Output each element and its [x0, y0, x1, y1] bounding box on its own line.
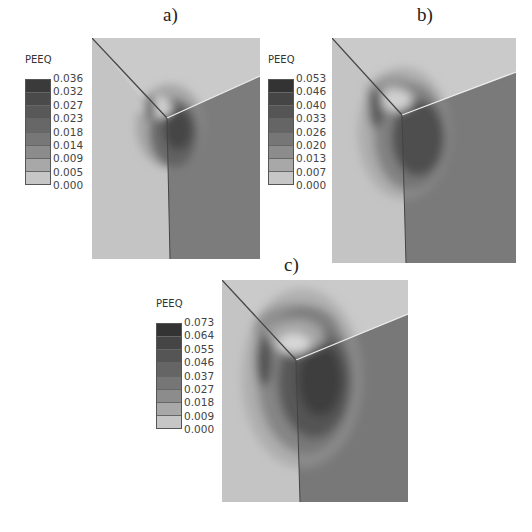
tick-label: 0.009 — [53, 153, 83, 164]
legend-title: PEEQ — [156, 298, 214, 309]
tick-label: 0.013 — [296, 153, 326, 164]
tick-label: 0.073 — [184, 317, 214, 328]
tick-label: 0.027 — [53, 100, 83, 111]
panel-c-contour-plot — [222, 280, 408, 502]
tick-label: 0.018 — [184, 397, 214, 408]
tick-label: 0.014 — [53, 140, 83, 151]
color-scale-bar — [25, 79, 51, 185]
tick-label: 0.009 — [184, 411, 214, 422]
tick-label: 0.000 — [184, 424, 214, 435]
tick-label: 0.036 — [53, 73, 83, 84]
tick-label: 0.046 — [296, 86, 326, 97]
legend-ticks: 0.036 0.032 0.027 0.023 0.018 0.014 0.00… — [53, 73, 83, 191]
legend-title: PEEQ — [268, 54, 326, 65]
panel-a-label: a) — [163, 4, 178, 26]
tick-label: 0.000 — [53, 180, 83, 191]
legend-ticks: 0.053 0.046 0.040 0.033 0.026 0.020 0.01… — [296, 73, 326, 191]
panel-b-legend: PEEQ 0.053 0.046 0.040 0.033 0.026 0.020… — [268, 54, 326, 185]
tick-label: 0.027 — [184, 384, 214, 395]
tick-label: 0.046 — [184, 357, 214, 368]
tick-label: 0.053 — [296, 73, 326, 84]
tick-label: 0.020 — [296, 140, 326, 151]
tick-label: 0.005 — [53, 167, 83, 178]
color-scale-bar — [156, 323, 182, 429]
panel-c-legend: PEEQ 0.073 0.064 0.055 0.046 0.037 0.027… — [156, 298, 214, 429]
legend-ticks: 0.073 0.064 0.055 0.046 0.037 0.027 0.01… — [184, 317, 214, 435]
panel-b-label: b) — [417, 4, 433, 26]
panel-b-contour-plot — [332, 38, 516, 263]
panel-c-label: c) — [284, 254, 299, 276]
tick-label: 0.023 — [53, 113, 83, 124]
tick-label: 0.055 — [184, 344, 214, 355]
tick-label: 0.037 — [184, 371, 214, 382]
panel-a-contour-plot — [92, 38, 260, 259]
tick-label: 0.018 — [53, 127, 83, 138]
tick-label: 0.040 — [296, 100, 326, 111]
panel-a-legend: PEEQ 0.036 0.032 0.027 0.023 0.018 0.014… — [25, 54, 83, 185]
tick-label: 0.033 — [296, 113, 326, 124]
tick-label: 0.007 — [296, 167, 326, 178]
tick-label: 0.026 — [296, 127, 326, 138]
color-scale-bar — [268, 79, 294, 185]
tick-label: 0.032 — [53, 86, 83, 97]
legend-title: PEEQ — [25, 54, 83, 65]
tick-label: 0.000 — [296, 180, 326, 191]
tick-label: 0.064 — [184, 330, 214, 341]
